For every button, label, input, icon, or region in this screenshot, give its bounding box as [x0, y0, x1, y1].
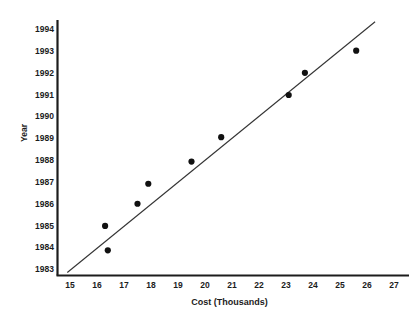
- data-point: [218, 134, 224, 140]
- data-point: [286, 92, 292, 98]
- data-point: [188, 158, 194, 164]
- data-point: [302, 70, 308, 76]
- data-point: [102, 223, 108, 229]
- data-point: [353, 48, 359, 54]
- data-point: [145, 181, 151, 187]
- plot-area: [0, 0, 413, 324]
- data-point: [134, 201, 140, 207]
- data-point: [105, 247, 111, 253]
- trend-line-segment: [67, 22, 375, 273]
- data-points: [102, 48, 359, 254]
- scatter-chart: Year 1994 1993 1992 1991 1990 1989 1988 …: [0, 0, 413, 324]
- trend-line: [67, 22, 375, 273]
